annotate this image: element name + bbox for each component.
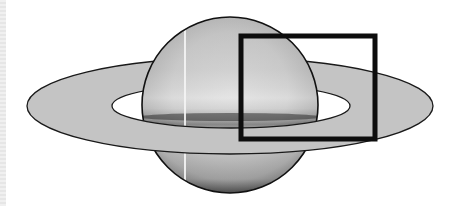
planet-body [138,17,322,193]
vertical-streak [184,17,186,193]
saturn-illustration: Saturn with highlighted region [0,0,449,206]
